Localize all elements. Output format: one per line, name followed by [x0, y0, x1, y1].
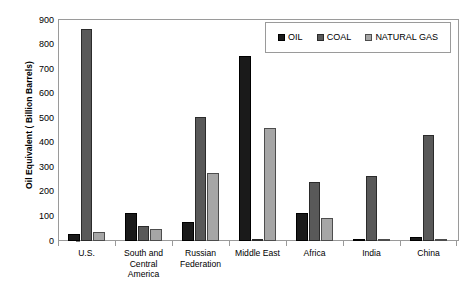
x-axis-tick-mark	[172, 241, 173, 246]
x-axis-tick-labels: U.S.South andCentralAmericaRussianFedera…	[58, 248, 459, 290]
x-axis-tick-label-line: Central	[115, 259, 172, 270]
x-axis-tick-label: RussianFederation	[172, 248, 229, 269]
legend-entry: NATURAL GAS	[365, 33, 438, 42]
y-axis-tick-label: 500	[22, 114, 54, 123]
bar-coal	[138, 226, 150, 241]
bar-coal	[81, 29, 93, 241]
x-axis-tick-mark	[343, 241, 344, 246]
y-axis-tick-label: 0	[22, 237, 54, 246]
x-axis-ticks	[58, 241, 459, 247]
bar-gas	[207, 173, 219, 241]
x-axis-tick-label-line: India	[343, 248, 400, 259]
chart-legend: OILCOALNATURAL GAS	[265, 22, 451, 53]
x-axis-tick-mark	[229, 241, 230, 246]
x-axis-tick-label-line: South and	[115, 248, 172, 259]
bar-group	[287, 20, 344, 241]
bar-oil	[125, 213, 137, 241]
bar-coal	[423, 135, 435, 241]
legend-label: OIL	[288, 33, 303, 42]
bar-group	[401, 20, 458, 241]
x-axis-tick-label-line: U.S.	[58, 248, 115, 259]
x-axis-tick-label: India	[343, 248, 400, 259]
x-axis-tick-mark	[58, 241, 59, 246]
legend-swatch-icon	[278, 34, 285, 41]
y-axis-tick-label: 200	[22, 187, 54, 196]
bar-chart: Oil Equivalent ( Billion Barrels) 900800…	[0, 0, 467, 291]
x-axis-tick-mark	[115, 241, 116, 246]
legend-entry: COAL	[317, 33, 352, 42]
bar-coal	[366, 176, 378, 241]
y-axis-tick-label: 700	[22, 65, 54, 74]
bar-group	[344, 20, 401, 241]
x-axis-tick-label: Middle East	[229, 248, 286, 259]
y-axis-tick-label: 900	[22, 16, 54, 25]
legend-entry: OIL	[278, 33, 303, 42]
bar-oil	[182, 222, 194, 241]
bars-layer	[59, 20, 458, 241]
bar-coal	[195, 117, 207, 241]
x-axis-tick-label-line: Middle East	[229, 248, 286, 259]
x-axis-tick-label: China	[400, 248, 457, 259]
bar-coal	[309, 182, 321, 241]
bar-group	[173, 20, 230, 241]
bar-group	[116, 20, 173, 241]
x-axis-tick-label-line: Africa	[286, 248, 343, 259]
y-axis-tick-label: 100	[22, 212, 54, 221]
y-axis-tick-label: 300	[22, 163, 54, 172]
bar-gas	[93, 232, 105, 241]
y-axis-tick-label: 800	[22, 40, 54, 49]
bar-gas	[321, 218, 333, 241]
x-axis-tick-label-line: Russian	[172, 248, 229, 259]
x-axis-tick-label-line: China	[400, 248, 457, 259]
legend-label: COAL	[327, 33, 352, 42]
x-axis-tick-mark	[286, 241, 287, 246]
x-axis-tick-mark	[400, 241, 401, 246]
y-axis-tick-label: 400	[22, 138, 54, 147]
bar-gas	[150, 229, 162, 241]
bar-group	[59, 20, 116, 241]
y-axis-tick-labels: 9008007006005004003002001000	[22, 0, 54, 291]
x-axis-tick-label: U.S.	[58, 248, 115, 259]
bar-gas	[264, 128, 276, 241]
x-axis-tick-label: South andCentralAmerica	[115, 248, 172, 280]
y-axis-tick-label: 600	[22, 89, 54, 98]
legend-label: NATURAL GAS	[375, 33, 438, 42]
bar-oil	[68, 234, 80, 241]
x-axis-tick-label-line: Federation	[172, 259, 229, 270]
legend-swatch-icon	[317, 34, 324, 41]
bar-group	[230, 20, 287, 241]
bar-oil	[296, 213, 308, 241]
bar-oil	[239, 56, 251, 241]
x-axis-tick-label: Africa	[286, 248, 343, 259]
x-axis-tick-label-line: America	[115, 269, 172, 280]
x-axis-tick-mark	[456, 241, 457, 246]
legend-swatch-icon	[365, 34, 372, 41]
